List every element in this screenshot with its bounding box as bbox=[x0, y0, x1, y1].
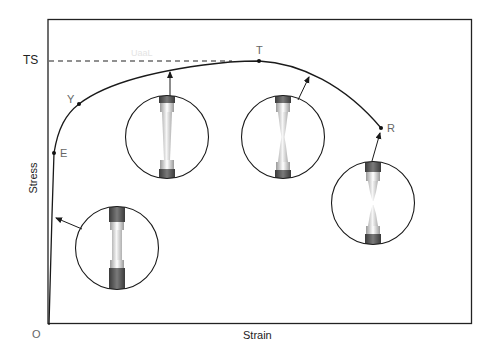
stress-strain-diagram bbox=[0, 0, 488, 354]
origin-label: O bbox=[32, 328, 41, 340]
x-axis-label: Strain bbox=[243, 329, 272, 341]
arrow-uniform-elastic bbox=[56, 218, 82, 229]
point-T-marker bbox=[257, 59, 261, 63]
y-axis-label: Stress bbox=[27, 161, 39, 195]
specimen-necking bbox=[242, 90, 325, 190]
point-R-marker bbox=[379, 126, 383, 130]
ghost-text: UaaL bbox=[131, 48, 153, 58]
point-E-label: E bbox=[60, 147, 67, 159]
point-R-label: R bbox=[387, 122, 395, 134]
arrow-fracture bbox=[372, 133, 380, 161]
arrow-necking bbox=[298, 77, 309, 100]
point-T-label: T bbox=[256, 44, 263, 56]
point-E-marker bbox=[52, 151, 56, 155]
specimen-fracture bbox=[332, 158, 415, 248]
specimen-uniform-plastic bbox=[126, 90, 209, 189]
point-Y-marker bbox=[77, 102, 81, 106]
point-Y-label: Y bbox=[67, 93, 74, 105]
specimen-uniform-elastic bbox=[76, 200, 159, 293]
ts-label: TS bbox=[23, 53, 38, 67]
